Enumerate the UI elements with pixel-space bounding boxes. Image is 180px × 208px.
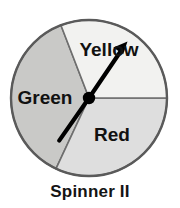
sector-label-green: Green (18, 87, 73, 108)
spinner-graphic: Yellow Green Red (0, 0, 180, 182)
needle-hub (83, 92, 95, 104)
spinner-figure: Yellow Green Red Spinner II (0, 0, 180, 208)
sector-label-red: Red (94, 124, 130, 145)
figure-caption: Spinner II (0, 180, 180, 204)
sector-label-yellow: Yellow (79, 39, 138, 60)
